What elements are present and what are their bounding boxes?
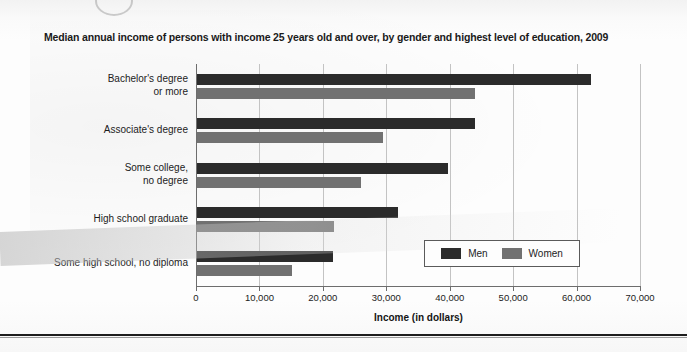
x-axis-tick-label: 60,000: [562, 292, 591, 303]
bar-women-3: [196, 221, 334, 232]
bar-men-0: [196, 74, 591, 85]
bar-men-3: [196, 207, 398, 218]
page-divider-rule: [0, 334, 687, 336]
x-axis-tick: [323, 287, 324, 291]
x-axis-tick-label: 20,000: [308, 292, 337, 303]
x-axis-tick: [577, 287, 578, 291]
legend-swatch-women-icon: [502, 248, 522, 259]
category-label-3: High school graduate: [93, 213, 188, 226]
x-axis-line: [196, 286, 641, 287]
x-axis-title: Income (in dollars): [196, 312, 641, 323]
legend-label-men: Men: [468, 248, 487, 259]
x-axis-tick-label: 40,000: [435, 292, 464, 303]
x-axis-tick-label: 10,000: [245, 292, 274, 303]
gridline: [640, 64, 641, 286]
x-axis-tick-label: 70,000: [625, 292, 654, 303]
bar-women-1: [196, 132, 383, 143]
x-axis-tick: [450, 287, 451, 291]
category-label-1: Associate's degree: [104, 124, 188, 137]
y-axis-line: [196, 64, 197, 287]
bar-women-2: [196, 177, 361, 188]
x-axis-tick: [513, 287, 514, 291]
x-axis-tick: [386, 287, 387, 291]
category-label-2: Some college, no degree: [125, 162, 188, 187]
bar-women-4: [196, 265, 292, 276]
bar-women-0: [196, 88, 475, 99]
chart-legend: Men Women: [424, 240, 580, 267]
category-label-4: Some high school, no diploma: [54, 257, 188, 270]
legend-label-women: Women: [529, 248, 563, 259]
bar-men-2: [196, 163, 448, 174]
page-divider-rule-shadow: [0, 337, 687, 338]
legend-swatch-men-icon: [441, 248, 461, 259]
chart-page: Median annual income of persons with inc…: [0, 0, 687, 352]
legend-item-women: Women: [502, 248, 563, 259]
x-axis-tick: [640, 287, 641, 291]
x-axis-tick: [196, 287, 197, 291]
x-axis-tick-label: 50,000: [499, 292, 528, 303]
x-axis-tick-label: 30,000: [372, 292, 401, 303]
x-axis-tick: [259, 287, 260, 291]
category-axis-labels: Bachelor's degree or moreAssociate's deg…: [0, 64, 188, 286]
bar-men-1: [196, 118, 475, 129]
chart-title: Median annual income of persons with inc…: [44, 31, 608, 43]
category-label-0: Bachelor's degree or more: [108, 73, 188, 98]
x-axis-tick-label: 0: [193, 292, 198, 303]
legend-item-men: Men: [441, 248, 487, 259]
bar-men-4: [196, 251, 333, 262]
